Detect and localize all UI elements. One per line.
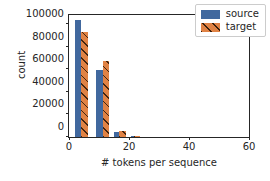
bar-target-1 xyxy=(103,61,109,137)
x-axis-title: # tokens per sequence xyxy=(68,158,250,168)
y-tick-label-2: 40000 xyxy=(32,77,64,87)
bar-target-3 xyxy=(134,136,140,137)
x-tick-label-3: 60 xyxy=(243,142,256,152)
x-tick-2 xyxy=(189,137,190,140)
histogram-figure: 0200004000060000800001000000204060 count… xyxy=(0,0,270,181)
y-tick-label-1: 20000 xyxy=(32,99,64,109)
legend-swatch-source-icon xyxy=(201,10,220,19)
y-tick-3 xyxy=(66,68,69,69)
chart-legend: source target xyxy=(195,4,266,37)
y-tick-label-0: 0 xyxy=(58,122,64,132)
x-tick-label-1: 20 xyxy=(123,142,136,152)
x-tick-label-2: 40 xyxy=(183,142,196,152)
legend-entry-source: source xyxy=(201,9,259,19)
y-tick-label-5: 100000 xyxy=(26,9,64,19)
legend-label-source: source xyxy=(226,9,259,19)
bar-source-0 xyxy=(75,20,81,137)
y-axis-title: count xyxy=(17,35,27,95)
legend-swatch-target-icon xyxy=(201,23,220,32)
legend-entry-target: target xyxy=(201,22,259,32)
legend-label-target: target xyxy=(226,22,256,32)
y-tick-label-3: 60000 xyxy=(32,54,64,64)
x-tick-label-0: 0 xyxy=(66,142,72,152)
y-tick-4 xyxy=(66,46,69,47)
x-tick-3 xyxy=(249,137,250,140)
bar-source-1 xyxy=(96,70,102,137)
y-tick-label-4: 80000 xyxy=(32,32,64,42)
bar-target-2 xyxy=(119,131,125,137)
bar-target-0 xyxy=(81,32,87,137)
y-tick-5 xyxy=(66,23,69,24)
x-tick-0 xyxy=(69,137,70,140)
x-tick-1 xyxy=(129,137,130,140)
y-tick-1 xyxy=(66,113,69,114)
y-tick-2 xyxy=(66,91,69,92)
